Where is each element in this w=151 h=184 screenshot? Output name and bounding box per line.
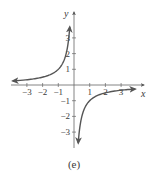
hyperbola-branch xyxy=(13,27,70,81)
axes xyxy=(11,12,144,148)
x-tick-label: −2 xyxy=(38,87,48,97)
y-tick-label: 1 xyxy=(66,64,71,74)
y-axis-label: y xyxy=(63,8,69,19)
y-tick-label: −1 xyxy=(60,96,70,106)
hyperbola-branch xyxy=(78,89,135,143)
graph-caption: (e) xyxy=(68,158,81,171)
x-tick-label: 1 xyxy=(87,87,92,97)
x-tick-label: 3 xyxy=(119,87,124,97)
x-axis-label: x xyxy=(140,88,146,99)
graph-e: −3−2−1123−3−2−1123 x y (e) xyxy=(0,0,151,184)
y-tick-label: −3 xyxy=(60,127,70,137)
y-tick-label: −2 xyxy=(60,111,70,121)
x-tick-label: −3 xyxy=(22,87,32,97)
